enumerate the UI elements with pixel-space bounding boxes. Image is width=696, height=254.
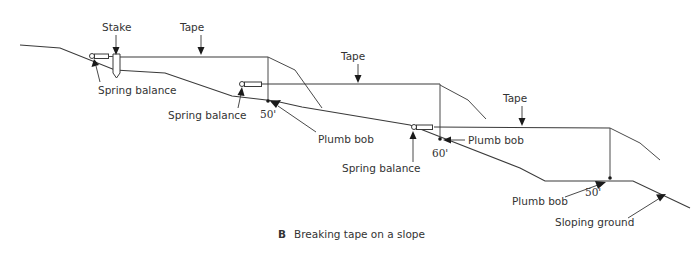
arrow-icon (656, 194, 666, 202)
figure-caption-letter: B (278, 228, 286, 240)
arrow-icon (198, 47, 205, 55)
plumb-bob-label-3: Plumb bob (512, 195, 568, 207)
stake-label: Stake (102, 21, 131, 33)
plumb-bob-1 (266, 99, 270, 103)
arrow-icon (443, 137, 451, 144)
slope-edge-2 (440, 85, 486, 119)
spring-balance-icon-3 (412, 125, 433, 130)
arrow-icon (410, 131, 417, 139)
spring-balance-label-2: Spring balance (168, 109, 247, 121)
spring-balance-icon-1 (90, 54, 114, 59)
spring-balance-label-3: Spring balance (342, 162, 421, 174)
plumb-bob-2 (438, 137, 442, 141)
plumb-bob-label-2: Plumb bob (468, 134, 524, 146)
tape-label-1: Tape (179, 21, 204, 33)
spring-balance-icon-2 (240, 82, 262, 87)
tape-line-3 (434, 127, 610, 128)
slope-edge-1 (268, 57, 322, 108)
spring-balance-label-1: Spring balance (98, 84, 177, 96)
arrow-icon (238, 87, 245, 96)
breaking-tape-diagram: Stake Tape Spring balance Spring balance… (0, 0, 696, 254)
tape-label-2: Tape (340, 50, 365, 62)
slope-edge-3 (610, 128, 660, 160)
arrow-icon (519, 118, 526, 126)
figure-caption: Breaking tape on a slope (294, 228, 425, 240)
dimension-label-1: 50' (260, 108, 276, 120)
stake-icon (113, 54, 120, 78)
dimension-label-2: 60' (432, 147, 448, 159)
plumb-bob-3 (608, 176, 612, 180)
plumb-bob-label-1: Plumb bob (318, 133, 374, 145)
sloping-ground-label: Sloping ground (555, 216, 634, 228)
arrow-icon (355, 75, 362, 83)
tape-label-3: Tape (502, 92, 527, 104)
